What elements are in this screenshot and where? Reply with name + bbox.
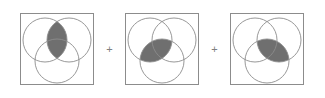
venn-diagram-ac	[122, 10, 202, 88]
venn-diagram-ab	[17, 10, 97, 88]
left-spacer	[0, 49, 17, 50]
venn-diagram-bc	[227, 10, 307, 88]
operator-plus-2: +	[202, 44, 227, 55]
venn-sum-figure: + +	[0, 0, 325, 98]
operator-plus-1: +	[97, 44, 122, 55]
